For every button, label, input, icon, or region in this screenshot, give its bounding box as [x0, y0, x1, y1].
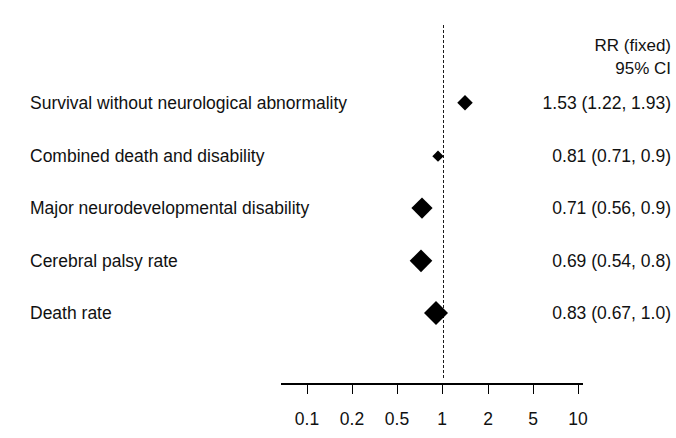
x-axis-tick-label: 0.2 — [340, 409, 364, 429]
x-axis-tick-label: 5 — [528, 409, 538, 429]
x-axis-tick-label: 0.1 — [295, 409, 319, 429]
reference-line-no-effect — [443, 25, 444, 378]
row-value-estimate-ci: 0.69 (0.54, 0.8) — [552, 251, 671, 271]
column-header-ci: 95% CI — [615, 59, 671, 79]
column-header-effect-measure: RR (fixed) — [594, 36, 671, 56]
x-axis-tick — [442, 385, 443, 394]
x-axis-tick — [578, 385, 579, 394]
diamond-marker-icon — [424, 301, 448, 325]
x-axis-tick-label: 1 — [437, 409, 447, 429]
row-value-estimate-ci: 0.81 (0.71, 0.9) — [552, 146, 671, 166]
row-value-estimate-ci: 0.71 (0.56, 0.9) — [552, 198, 671, 218]
diamond-marker-icon — [457, 95, 473, 111]
row-value-estimate-ci: 0.83 (0.67, 1.0) — [552, 303, 671, 323]
row-label: Cerebral palsy rate — [30, 251, 178, 271]
x-axis-tick-label: 2 — [483, 409, 493, 429]
x-axis-tick — [533, 385, 534, 394]
row-label: Combined death and disability — [30, 146, 264, 166]
diamond-marker-icon — [433, 151, 444, 162]
x-axis-line — [281, 383, 583, 385]
row-label: Death rate — [30, 303, 112, 323]
x-axis-tick-label: 10 — [568, 409, 587, 429]
row-label: Major neurodevelopmental disability — [30, 198, 309, 218]
forest-plot-figure: RR (fixed) 95% CI Survival without neuro… — [0, 0, 676, 438]
row-value-estimate-ci: 1.53 (1.22, 1.93) — [543, 93, 671, 113]
x-axis-tick — [488, 385, 489, 394]
x-axis-tick — [352, 385, 353, 394]
x-axis-tick — [397, 385, 398, 394]
diamond-marker-icon — [412, 198, 433, 219]
x-axis-tick-label: 0.5 — [385, 409, 409, 429]
x-axis-tick — [307, 385, 308, 394]
diamond-marker-icon — [410, 250, 433, 273]
row-label: Survival without neurological abnormalit… — [30, 93, 347, 113]
